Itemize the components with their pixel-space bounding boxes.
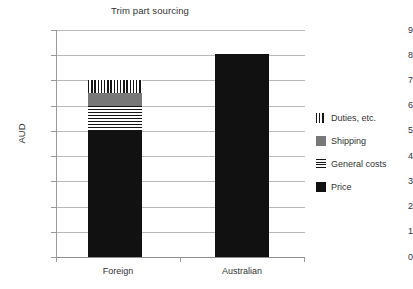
y-tick-6 (51, 106, 56, 107)
legend-label-duties: Duties, etc. (331, 113, 376, 123)
legend-swatch-shipping-icon (316, 136, 326, 146)
x-tick-middle (180, 257, 181, 262)
bar-segment-shipping[interactable] (88, 93, 142, 106)
y-tick-1 (51, 232, 56, 233)
bar-segment-general-costs[interactable] (88, 106, 142, 131)
y-tick-label-0: 0 (369, 253, 413, 262)
x-label-australian: Australian (180, 266, 304, 276)
legend-item-shipping[interactable]: Shipping (316, 134, 366, 148)
legend-swatch-duties-icon (316, 113, 326, 123)
chart-container: Trim part sourcing AUD 9 (0, 0, 413, 289)
y-tick-label-1: 1 (369, 227, 413, 236)
y-tick-9 (51, 30, 56, 31)
legend-item-general-costs[interactable]: General costs (316, 157, 387, 171)
y-tick-label-6: 6 (369, 101, 413, 110)
bar-segment-price[interactable] (215, 54, 269, 257)
y-tick-label-3: 3 (369, 177, 413, 186)
chart-title: Trim part sourcing (0, 5, 300, 16)
y-tick-7 (51, 80, 56, 81)
x-label-foreign: Foreign (56, 266, 180, 276)
legend-swatch-general-costs-icon (316, 159, 326, 169)
legend-item-duties[interactable]: Duties, etc. (316, 111, 376, 125)
gridline-9 (56, 30, 305, 31)
y-tick-2 (51, 207, 56, 208)
x-tick-right (304, 257, 305, 262)
y-tick-label-5: 5 (369, 126, 413, 135)
y-tick-label-7: 7 (369, 76, 413, 85)
legend-label-price: Price (331, 182, 352, 192)
bar-segment-price[interactable] (88, 131, 142, 257)
legend-label-general-costs: General costs (331, 159, 387, 169)
legend-label-shipping: Shipping (331, 136, 366, 146)
y-axis-title: AUD (16, 99, 27, 169)
plot-area (56, 30, 305, 257)
bar-segment-duties[interactable] (88, 80, 142, 93)
y-tick-8 (51, 55, 56, 56)
y-tick-5 (51, 131, 56, 132)
legend-swatch-price-icon (316, 182, 326, 192)
bar-australian[interactable] (215, 54, 269, 257)
y-tick-label-2: 2 (369, 202, 413, 211)
y-tick-4 (51, 156, 56, 157)
y-tick-label-8: 8 (369, 51, 413, 60)
y-tick-3 (51, 181, 56, 182)
x-tick-left (56, 257, 57, 262)
y-axis-line (56, 30, 57, 258)
bar-foreign[interactable] (88, 80, 142, 257)
y-tick-label-9: 9 (369, 26, 413, 35)
legend-item-price[interactable]: Price (316, 180, 352, 194)
